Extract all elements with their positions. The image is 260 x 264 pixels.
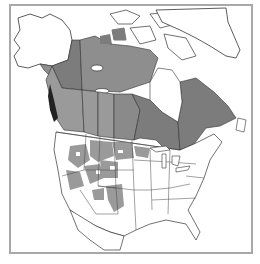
range-map: [0, 0, 260, 264]
saskatchewan-range: [98, 92, 114, 138]
alaska-land: [14, 14, 72, 68]
newfoundland: [236, 118, 246, 132]
great-bear-lake: [91, 65, 103, 71]
alberta-range: [82, 90, 98, 136]
greenland: [156, 8, 240, 58]
nwt-range: [80, 36, 158, 92]
